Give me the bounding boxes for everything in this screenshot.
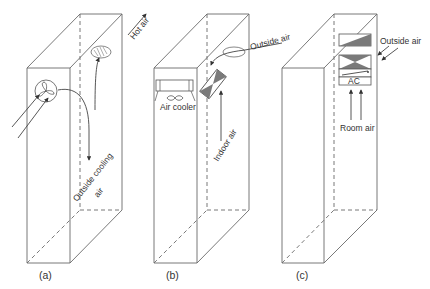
- heat-exchanger-c: [339, 55, 371, 69]
- label-hot-air: Hot air: [128, 15, 151, 41]
- fan-icon: [35, 80, 57, 102]
- label-outside-air-b: Outside air: [249, 32, 291, 52]
- ac-unit: AC: [339, 69, 371, 86]
- label-outside-cooling: Outside cooling: [71, 151, 115, 204]
- cabinet-cooling-diagram: Hot air Outside cooling air (a) A: [0, 0, 430, 289]
- label-outside-air-c: Outside air: [380, 36, 421, 46]
- label-air-cooler: Air cooler: [160, 102, 196, 112]
- cooling-air-flow: [58, 89, 89, 160]
- cabinet-a: [27, 14, 122, 263]
- cabinet-c: [282, 14, 377, 263]
- caption-a: (a): [39, 269, 52, 281]
- label-indoor-air: Indoor air: [211, 127, 239, 163]
- outside-air-arrow-1: [378, 46, 389, 55]
- air-cooler-unit: Air cooler: [155, 80, 196, 112]
- panel-a: Hot air Outside cooling air (a): [12, 14, 151, 281]
- exhaust-swirl: [91, 46, 111, 110]
- label-room-air: Room air: [340, 123, 375, 133]
- label-ac: AC: [348, 76, 360, 86]
- heat-exchanger: [200, 69, 227, 98]
- intake-arrow-1: [12, 95, 39, 127]
- panel-c: AC Outside air Room air (c): [282, 14, 421, 281]
- label-outside-cooling-air: air: [92, 185, 106, 199]
- damper: [339, 34, 371, 46]
- caption-b: (b): [166, 269, 179, 281]
- panel-b: Air cooler Outside air Indoor air (b): [154, 14, 291, 281]
- caption-c: (c): [296, 269, 308, 281]
- intake-arrow-2: [18, 98, 48, 138]
